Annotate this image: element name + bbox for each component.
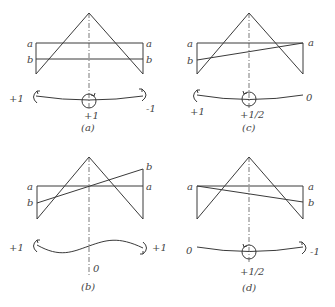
panel-b: a b b a +1 +1 0 (b) bbox=[9, 157, 167, 292]
moment-left: +1 bbox=[9, 93, 24, 104]
label-right-b: b bbox=[146, 54, 152, 65]
moment-center: +1 bbox=[84, 110, 99, 121]
moment-center: 0 bbox=[93, 263, 100, 274]
moment-left: 0 bbox=[186, 245, 193, 256]
line-b bbox=[197, 43, 303, 60]
left-moment-arrow-icon bbox=[34, 240, 38, 252]
left-moment-arrow-icon bbox=[34, 91, 38, 103]
deflection-curve bbox=[36, 96, 143, 100]
label-left-b: b bbox=[187, 55, 193, 66]
panel-c: a b a +1 0 +1/2 (c) bbox=[187, 13, 314, 133]
label-right-a: a bbox=[308, 181, 314, 192]
left-diagonal bbox=[197, 157, 249, 219]
right-moment-arrow-icon bbox=[143, 242, 147, 254]
moment-right: -1 bbox=[310, 246, 320, 257]
right-diagonal bbox=[89, 157, 143, 219]
panel-d: a a b 0 -1 +1/2 (d) bbox=[186, 157, 320, 293]
deflection-curve bbox=[197, 247, 303, 252]
caption-d: (d) bbox=[242, 282, 256, 293]
label-left-a: a bbox=[27, 38, 33, 49]
deflection-curve bbox=[37, 240, 143, 253]
right-moment-arrow-icon bbox=[142, 89, 146, 101]
label-left-b: b bbox=[27, 54, 33, 65]
panel-a: a b a b +1 -1 +1 (a) bbox=[9, 13, 156, 133]
label-right-b: b bbox=[308, 197, 314, 208]
moment-right: 0 bbox=[306, 92, 313, 103]
label-left-a: a bbox=[187, 181, 193, 192]
moment-right: -1 bbox=[146, 103, 156, 114]
label-left-b: b bbox=[27, 197, 33, 208]
moment-right: +1 bbox=[152, 242, 167, 253]
moment-center: +1/2 bbox=[240, 266, 264, 277]
moment-center: +1/2 bbox=[240, 109, 264, 120]
caption-a: (a) bbox=[81, 122, 95, 133]
deflection-curve bbox=[197, 95, 303, 100]
moment-left: +1 bbox=[190, 106, 205, 117]
label-right-a: a bbox=[146, 38, 152, 49]
label-right-a: a bbox=[146, 181, 152, 192]
right-moment-arrow-icon bbox=[302, 242, 306, 254]
label-right-b: b bbox=[146, 161, 152, 172]
right-diagonal bbox=[249, 157, 303, 219]
influence-line-diagram: a b a b +1 -1 +1 (a) a b a +1 0 +1/2 bbox=[0, 0, 335, 307]
label-right-a: a bbox=[308, 37, 314, 48]
caption-c: (c) bbox=[242, 122, 256, 133]
caption-b: (b) bbox=[81, 281, 95, 292]
label-left-a: a bbox=[187, 38, 193, 49]
moment-left: +1 bbox=[9, 242, 24, 253]
left-moment-arrow-icon bbox=[194, 90, 198, 102]
label-left-a: a bbox=[27, 181, 33, 192]
left-diagonal bbox=[37, 157, 89, 219]
